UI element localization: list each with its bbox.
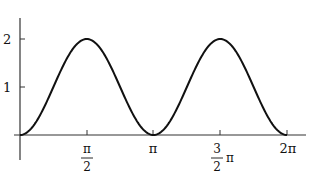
x-tick-label-pi-half: π 2 <box>81 142 93 172</box>
y-tick-label-1: 1 <box>3 80 11 95</box>
x-tick-label-three-half-pi: 3 2 π <box>211 142 234 172</box>
x-tick-label-pi: π <box>149 141 158 156</box>
y-ticks: 2 1 <box>3 32 25 95</box>
svg-text:3: 3 <box>213 142 221 156</box>
svg-text:π: π <box>83 142 91 156</box>
x-ticks: π 2 π 3 2 π 2π <box>81 130 297 172</box>
svg-text:2: 2 <box>83 160 91 172</box>
x-tick-label-two-pi: 2π <box>280 141 297 156</box>
y-tick-label-2: 2 <box>3 32 11 47</box>
chart: 2 1 π 2 π 3 2 π 2π <box>0 0 312 172</box>
curve-line <box>20 39 287 135</box>
svg-text:2: 2 <box>213 160 221 172</box>
svg-text:π: π <box>226 151 234 165</box>
